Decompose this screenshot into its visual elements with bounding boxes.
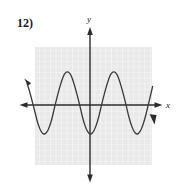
y-axis-bottom-arrowhead (87, 175, 93, 183)
y-axis-label: y (87, 14, 91, 24)
plot-grid-background (35, 47, 152, 165)
x-axis-label: x (166, 100, 170, 110)
curve-left-arrowhead (24, 79, 31, 86)
problem-number: 12) (17, 16, 33, 30)
x-axis-left-arrowhead (20, 102, 28, 108)
x-axis-right-arrowhead (155, 102, 163, 108)
y-axis-top-arrowhead (87, 27, 93, 35)
